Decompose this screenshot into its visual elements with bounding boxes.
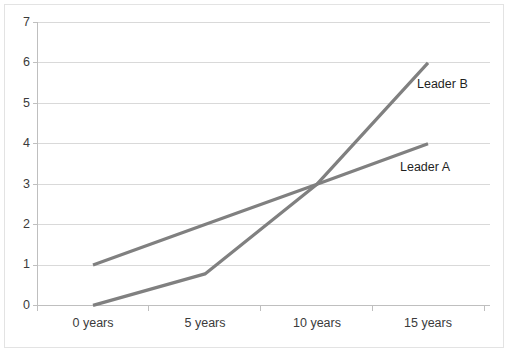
x-axis-ticks: [38, 305, 485, 311]
y-tick-label-6: 6: [6, 56, 30, 68]
plot-area: [0, 0, 508, 352]
series-line-leader-a: [93, 144, 428, 265]
x-tick-label-15-years: 15 years: [373, 317, 483, 330]
y-tick-label-2: 2: [6, 218, 30, 230]
y-tick-label-3: 3: [6, 178, 30, 190]
y-tick-label-1: 1: [6, 258, 30, 270]
x-tick-label-10-years: 10 years: [262, 317, 372, 330]
y-tick-label-4: 4: [6, 137, 30, 149]
series-label-leader-a: Leader A: [400, 161, 450, 174]
y-tick-label-0: 0: [6, 299, 30, 311]
x-tick-label-5-years: 5 years: [150, 317, 260, 330]
line-chart: 7 6 5 4 3 2 1 0 0 years 5 years 10 years…: [0, 0, 508, 352]
y-tick-label-5: 5: [6, 97, 30, 109]
x-tick-label-0-years: 0 years: [38, 317, 148, 330]
series-label-leader-b: Leader B: [417, 78, 468, 91]
y-axis-ticks: [33, 23, 37, 306]
y-tick-label-7: 7: [6, 16, 30, 28]
